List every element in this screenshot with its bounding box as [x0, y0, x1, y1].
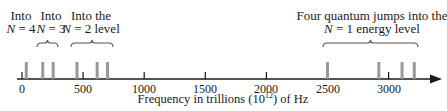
spectral-line	[41, 62, 44, 79]
label-n1: Four quantum jumps into the N = 1 energy…	[297, 9, 447, 35]
label-n3: Into N = 3	[36, 9, 65, 35]
spectral-line	[25, 62, 28, 79]
tick-label-3000: 3000	[377, 83, 401, 95]
n-value: = 1 energy level	[333, 21, 420, 36]
axis-title-prefix: Frequency in trillions (10	[138, 92, 265, 106]
n-value: = 2 level	[71, 21, 120, 36]
n-variable: N	[324, 21, 333, 36]
label-n1-line2: N = 1 energy level	[297, 22, 447, 35]
spectral-line	[75, 62, 78, 79]
tick-label-2500: 2500	[316, 83, 340, 95]
label-n2-line2: N = 2 level	[62, 22, 120, 35]
spectral-line	[96, 62, 99, 79]
label-n2: Into the N = 2 level	[62, 9, 120, 35]
spectral-line	[52, 62, 55, 79]
axis-title-suffix: ) of Hz	[273, 92, 308, 106]
spectral-line	[401, 62, 404, 79]
tick-label-500: 500	[74, 83, 92, 95]
n-variable: N	[62, 21, 71, 36]
spectral-line	[377, 62, 380, 79]
tick-label-0: 0	[19, 83, 25, 95]
n-variable: N	[6, 21, 15, 36]
axis-arrow-icon	[430, 75, 442, 84]
axis-title: Frequency in trillions (1012) of Hz	[138, 93, 309, 106]
label-n4-line2: N = 4	[6, 22, 35, 35]
n-value: = 4	[15, 21, 35, 36]
spectral-line	[326, 62, 329, 79]
label-n4: Into N = 4	[6, 9, 35, 35]
spectral-line	[106, 62, 109, 79]
spectral-line	[413, 62, 416, 79]
label-n3-line2: N = 3	[36, 22, 65, 35]
group-brace	[37, 40, 58, 47]
group-brace	[71, 40, 113, 47]
n-variable: N	[36, 21, 45, 36]
group-brace	[323, 40, 418, 47]
